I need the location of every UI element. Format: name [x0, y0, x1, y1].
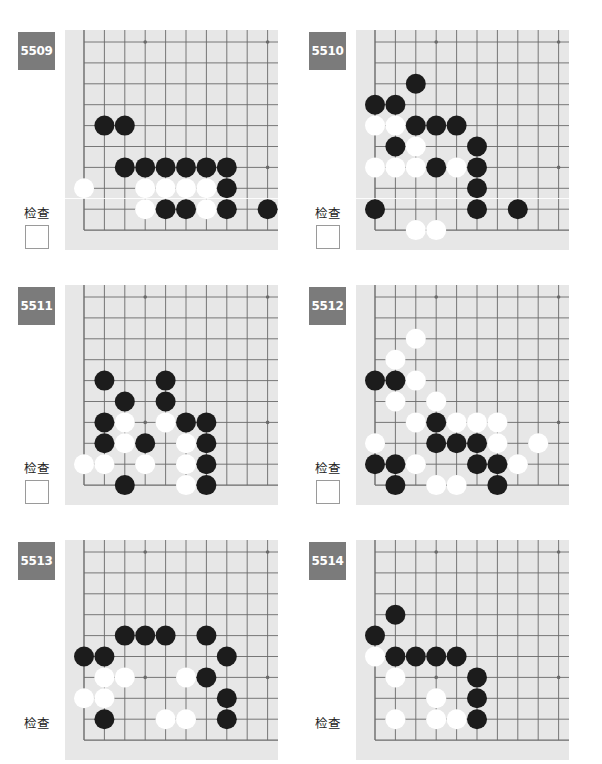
black-stone [217, 647, 237, 667]
problem-cell: 5511 检查 [0, 255, 291, 510]
check-checkbox[interactable] [316, 480, 340, 504]
black-stone [156, 392, 176, 412]
white-stone [115, 412, 135, 432]
check-checkbox[interactable] [25, 225, 49, 249]
black-stone [467, 667, 487, 687]
white-stone [94, 454, 114, 474]
white-stone [508, 454, 528, 474]
white-stone [406, 371, 426, 391]
white-stone [426, 709, 446, 729]
check-label: 检查 [315, 203, 341, 222]
black-stone [135, 433, 155, 453]
black-stone [385, 137, 405, 157]
black-stone [156, 157, 176, 177]
problem-number-badge: 5510 [309, 32, 346, 70]
board-grid [356, 285, 569, 505]
black-stone [508, 199, 528, 219]
white-stone [528, 433, 548, 453]
white-stone [447, 157, 467, 177]
star-point [557, 295, 561, 299]
black-stone [135, 626, 155, 646]
black-stone [115, 475, 135, 495]
white-stone [426, 475, 446, 495]
white-stone [176, 475, 196, 495]
board-grid [356, 540, 569, 760]
black-stone [258, 199, 278, 219]
star-point [557, 166, 561, 170]
white-stone [385, 157, 405, 177]
problem-number-badge: 5513 [18, 542, 55, 580]
black-stone [94, 371, 114, 391]
star-point [266, 550, 270, 554]
check-label: 检查 [24, 203, 50, 222]
black-stone [365, 454, 385, 474]
black-stone [176, 157, 196, 177]
white-stone [176, 709, 196, 729]
white-stone [115, 433, 135, 453]
white-stone [406, 412, 426, 432]
black-stone [217, 688, 237, 708]
black-stone [74, 647, 94, 667]
black-stone [426, 412, 446, 432]
black-stone [156, 626, 176, 646]
black-stone [196, 157, 216, 177]
black-stone [467, 178, 487, 198]
go-board [65, 30, 278, 250]
white-stone [385, 116, 405, 136]
star-point [557, 421, 561, 425]
black-stone [385, 475, 405, 495]
white-stone [426, 220, 446, 240]
white-stone [176, 433, 196, 453]
problem-cell: 5513 检查 [0, 510, 291, 764]
check-checkbox[interactable] [25, 480, 49, 504]
white-stone [176, 667, 196, 687]
black-stone [196, 433, 216, 453]
black-stone [365, 95, 385, 115]
black-stone [385, 95, 405, 115]
black-stone [217, 199, 237, 219]
black-stone [487, 475, 507, 495]
white-stone [447, 412, 467, 432]
problem-number-badge: 5511 [18, 287, 55, 325]
black-stone [94, 433, 114, 453]
white-stone [135, 199, 155, 219]
check-label: 检查 [315, 458, 341, 477]
black-stone [406, 116, 426, 136]
white-stone [135, 178, 155, 198]
white-stone [365, 433, 385, 453]
star-point [557, 40, 561, 44]
white-stone [74, 688, 94, 708]
black-stone [196, 626, 216, 646]
black-stone [115, 116, 135, 136]
check-label: 检查 [24, 713, 50, 732]
black-stone [385, 454, 405, 474]
white-stone [135, 454, 155, 474]
black-stone [94, 709, 114, 729]
star-point [266, 295, 270, 299]
go-board [356, 30, 569, 250]
black-stone [156, 371, 176, 391]
go-board [65, 285, 278, 505]
black-stone [196, 667, 216, 687]
white-stone [196, 178, 216, 198]
star-point [434, 550, 438, 554]
star-point [434, 40, 438, 44]
star-point [266, 421, 270, 425]
star-point [143, 676, 147, 680]
star-point [266, 40, 270, 44]
black-stone [467, 157, 487, 177]
black-stone [385, 371, 405, 391]
scan-artifact-line [0, 198, 602, 199]
white-stone [365, 647, 385, 667]
black-stone [115, 157, 135, 177]
star-point [143, 40, 147, 44]
white-stone [176, 178, 196, 198]
white-stone [487, 433, 507, 453]
white-stone [426, 392, 446, 412]
check-checkbox[interactable] [316, 225, 340, 249]
problem-cell: 5514 检查 [291, 510, 582, 764]
black-stone [196, 412, 216, 432]
black-stone [467, 454, 487, 474]
black-stone [94, 647, 114, 667]
black-stone [406, 74, 426, 94]
